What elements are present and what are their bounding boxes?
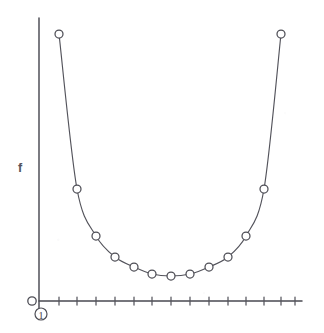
data-point-marker-10 (242, 232, 250, 240)
data-point-marker-4 (130, 263, 138, 271)
data-point-marker-12 (277, 30, 285, 38)
data-point-marker-3 (111, 253, 119, 261)
data-point-marker-8 (205, 263, 213, 271)
data-point-marker-5 (148, 270, 156, 278)
plot-canvas: 1 f (0, 0, 324, 333)
origin-marker-ring (28, 297, 36, 305)
circled-unit-marker-label: 1 (38, 309, 44, 321)
data-point-marker-0 (55, 30, 63, 38)
data-point-group (55, 30, 285, 280)
data-point-marker-6 (167, 272, 175, 280)
data-point-marker-2 (92, 232, 100, 240)
data-point-marker-9 (224, 253, 232, 261)
figure-root: 1 f (0, 0, 324, 333)
y-axis-label: f (18, 161, 23, 175)
data-point-marker-1 (73, 185, 81, 193)
data-point-marker-7 (186, 270, 194, 278)
data-point-marker-11 (260, 185, 268, 193)
